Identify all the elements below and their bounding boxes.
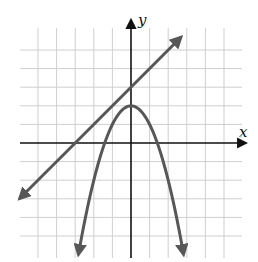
- curves: [19, 37, 183, 255]
- coordinate-plane: x y: [0, 0, 258, 262]
- axes: x y: [20, 11, 248, 258]
- linear-function-line: [19, 37, 181, 199]
- y-axis-label: y: [137, 11, 147, 29]
- x-axis-label: x: [239, 123, 248, 141]
